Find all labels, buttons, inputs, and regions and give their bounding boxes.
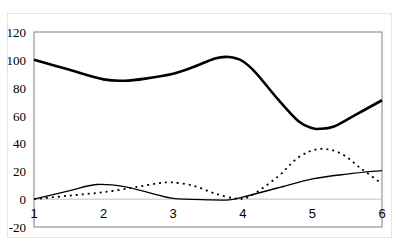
- y-tick-label: 120: [7, 25, 27, 40]
- y-tick-label: 20: [13, 164, 26, 179]
- y-tick-label: 0: [20, 192, 27, 207]
- y-tick-label: 40: [13, 136, 26, 151]
- y-tick-label: 80: [13, 81, 26, 96]
- y-tick-label: -20: [9, 220, 26, 235]
- y-tick-label: 100: [7, 53, 27, 68]
- x-tick-label: 1: [30, 206, 37, 221]
- x-tick-label: 2: [100, 206, 107, 221]
- y-tick-label: 60: [13, 109, 26, 124]
- x-tick-label: 5: [309, 206, 316, 221]
- x-tick-label: 6: [378, 206, 385, 221]
- x-tick-label: 3: [170, 206, 177, 221]
- line-chart: -20020406080100120 123456: [0, 0, 397, 243]
- x-tick-label: 4: [239, 206, 246, 221]
